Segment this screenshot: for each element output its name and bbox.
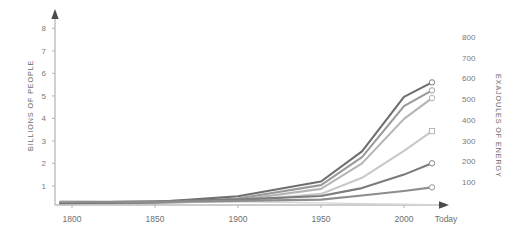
y-right-tick-300: 300 (462, 137, 486, 146)
y-right-tick-800: 800 (462, 33, 486, 42)
y-left-tick-4: 4 (30, 114, 46, 123)
y-left-tick-1: 1 (30, 182, 46, 191)
y-right-tick-700: 700 (462, 54, 486, 63)
chart-container: BILLIONS OF PEOPLE EXAJOULES OF ENERGY 8… (0, 0, 525, 242)
endpoint-marker-energy-other (429, 129, 434, 134)
y-axis-right-title: EXAJOULES OF ENERGY (494, 74, 503, 178)
endpoint-marker-energy-oil (429, 88, 434, 93)
y-right-tick-200: 200 (462, 157, 486, 166)
y-left-tick-6: 6 (30, 69, 46, 78)
y-right-tick-500: 500 (462, 95, 486, 104)
line-chart-svg (0, 0, 525, 242)
endpoint-marker-energy-gas (429, 95, 434, 100)
endpoint-marker-energy-coal (429, 80, 434, 85)
series-energy-coal (60, 80, 435, 203)
x-tick-2000: 2000 (384, 214, 424, 224)
x-tick-1900: 1900 (218, 214, 258, 224)
x-label-today: Today (424, 214, 468, 224)
x-tick-1950: 1950 (301, 214, 341, 224)
series-energy-gas (60, 95, 435, 203)
y-left-tick-7: 7 (30, 47, 46, 56)
x-tick-1800: 1800 (52, 214, 92, 224)
endpoint-marker-baseline-series (429, 185, 434, 190)
y-left-tick-8: 8 (30, 24, 46, 33)
series-energy-other (60, 129, 435, 204)
y-left-tick-3: 3 (30, 137, 46, 146)
y-left-tick-5: 5 (30, 92, 46, 101)
x-tick-1850: 1850 (135, 214, 175, 224)
y-right-tick-400: 400 (462, 116, 486, 125)
y-axis (51, 9, 58, 205)
y-right-tick-100: 100 (462, 178, 486, 187)
endpoint-marker-population (429, 161, 434, 166)
y-left-tick-2: 2 (30, 159, 46, 168)
y-right-tick-600: 600 (462, 74, 486, 83)
